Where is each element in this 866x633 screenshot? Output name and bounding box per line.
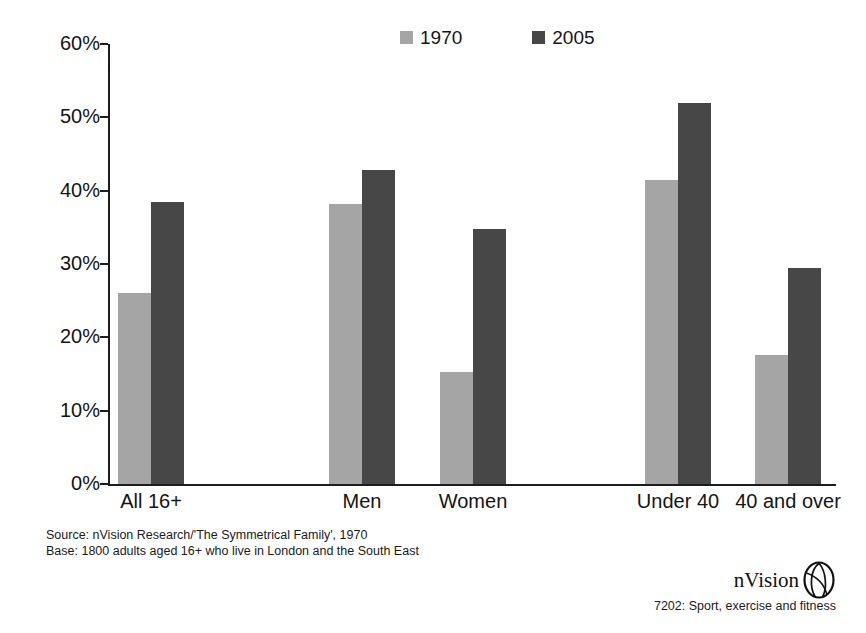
bar-40-and-over-2005[interactable]	[788, 268, 821, 484]
source-note: Source: nVision Research/'The Symmetrica…	[46, 528, 419, 559]
base-line: Base: 1800 adults aged 16+ who live in L…	[46, 544, 419, 560]
bar-women-2005[interactable]	[473, 229, 506, 484]
source-line: Source: nVision Research/'The Symmetrica…	[46, 528, 419, 544]
bar-40-and-over-1970[interactable]	[755, 355, 788, 484]
x-axis-label-40-and-over: 40 and over	[698, 490, 866, 512]
bar-men-2005[interactable]	[362, 170, 395, 484]
nvision-logo-icon	[802, 561, 836, 599]
bar-all-16--2005[interactable]	[151, 202, 184, 484]
bar-under-40-1970[interactable]	[645, 180, 678, 484]
bar-all-16--1970[interactable]	[118, 293, 151, 484]
bar-under-40-2005[interactable]	[678, 103, 711, 484]
brand-name: nVision	[734, 570, 799, 591]
bar-women-1970[interactable]	[440, 372, 473, 484]
x-axis-label-women: Women	[383, 490, 563, 512]
brand-caption: 7202: Sport, exercise and fitness	[636, 598, 836, 614]
brand-row: nVision	[636, 560, 836, 600]
brand-block: nVision 7202: Sport, exercise and fitnes…	[636, 560, 836, 626]
bar-men-1970[interactable]	[329, 204, 362, 484]
bars-layer	[0, 0, 866, 486]
x-axis-label-all-16-: All 16+	[61, 490, 241, 512]
chart-container: 1970 2005 0%10%20%30%40%50%60% All 16+Me…	[0, 0, 866, 633]
